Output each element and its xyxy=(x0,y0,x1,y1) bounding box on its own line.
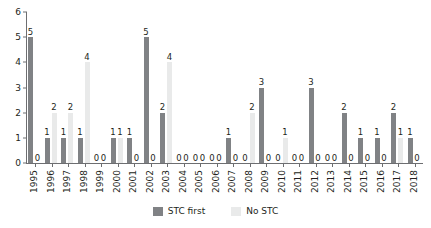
bar-1998-stc-first: 1 xyxy=(78,138,83,163)
x-axis-tick-mark xyxy=(332,164,333,167)
bar-value-label: 2 xyxy=(51,103,56,112)
x-axis-tick-label-2011: 2011 xyxy=(294,170,303,193)
bar-value-label: 0 xyxy=(200,154,205,163)
x-axis-tick-mark xyxy=(52,164,53,167)
x-axis-tick-mark xyxy=(151,164,152,167)
year-group: 12 xyxy=(44,12,61,163)
bar-value-label: 0 xyxy=(134,154,139,163)
x-axis-tick-label-2007: 2007 xyxy=(228,170,237,193)
bar-value-label: 0 xyxy=(299,154,304,163)
x-axis-tick-mark xyxy=(250,164,251,167)
bar-value-label: 0 xyxy=(275,154,280,163)
x-axis-tick-mark xyxy=(349,164,350,167)
x-axis-tick-mark xyxy=(415,164,416,167)
x-axis-tick-mark xyxy=(299,164,300,167)
bar-value-label: 1 xyxy=(398,128,403,137)
bar-1996-stc-first: 1 xyxy=(45,138,50,163)
y-axis: 0123456 xyxy=(0,0,27,170)
x-axis-tick-label-2005: 2005 xyxy=(195,170,204,193)
bar-value-label: 4 xyxy=(84,53,89,62)
bar-value-label: 0 xyxy=(216,154,221,163)
x-axis-tick-mark xyxy=(233,164,234,167)
year-group: 20 xyxy=(341,12,358,163)
x-axis-tick-mark xyxy=(365,164,366,167)
bar-value-label: 0 xyxy=(176,154,181,163)
x-axis-tick-label-2002: 2002 xyxy=(146,170,155,193)
bar-value-label: 0 xyxy=(233,154,238,163)
year-group: 00 xyxy=(291,12,308,163)
bar-value-label: 1 xyxy=(77,128,82,137)
bar-value-label: 1 xyxy=(226,128,231,137)
legend-swatch xyxy=(153,207,163,216)
legend-label: No STC xyxy=(246,207,278,216)
bar-2017-stc-first: 2 xyxy=(391,113,396,163)
bar-2017-no-stc: 1 xyxy=(398,138,403,163)
bar-value-label: 1 xyxy=(282,128,287,137)
x-axis-tick-label-2006: 2006 xyxy=(212,170,221,193)
x-axis-tick-mark xyxy=(35,164,36,167)
x-axis-tick-label-2003: 2003 xyxy=(162,170,171,193)
bar-value-label: 0 xyxy=(209,154,214,163)
bar-2009-stc-first: 3 xyxy=(259,88,264,164)
y-axis-tick-label: 4 xyxy=(15,58,21,67)
x-axis-tick-mark xyxy=(316,164,317,167)
year-group: 30 xyxy=(258,12,275,163)
bar-value-label: 0 xyxy=(381,154,386,163)
bar-value-label: 0 xyxy=(365,154,370,163)
plot-area: 5012121400111050240000001002300100300020… xyxy=(27,12,423,163)
x-axis-tick-label-2008: 2008 xyxy=(245,170,254,193)
bar-value-label: 2 xyxy=(341,103,346,112)
bar-value-label: 0 xyxy=(414,154,419,163)
year-group: 10 xyxy=(374,12,391,163)
bar-value-label: 0 xyxy=(94,154,99,163)
bar-2002-stc-first: 5 xyxy=(144,37,149,163)
x-axis-tick-label-1999: 1999 xyxy=(96,170,105,193)
year-group: 21 xyxy=(390,12,407,163)
bar-value-label: 1 xyxy=(358,128,363,137)
x-axis-tick-label-2017: 2017 xyxy=(393,170,402,193)
bar-value-label: 4 xyxy=(167,53,172,62)
y-axis-tick-label: 6 xyxy=(15,8,21,17)
year-group: 50 xyxy=(27,12,44,163)
y-axis-tick-label: 2 xyxy=(15,108,21,117)
legend-item-no-stc: No STC xyxy=(231,207,278,216)
x-axis-tick-label-2016: 2016 xyxy=(377,170,386,193)
bar-value-label: 0 xyxy=(348,154,353,163)
bar-2000-stc-first: 1 xyxy=(111,138,116,163)
year-group: 14 xyxy=(77,12,94,163)
x-axis-tick-label-2000: 2000 xyxy=(113,170,122,193)
year-group: 30 xyxy=(308,12,325,163)
x-axis-tick-label-1996: 1996 xyxy=(47,170,56,193)
legend-item-stc-first: STC first xyxy=(153,207,205,216)
year-group: 10 xyxy=(225,12,242,163)
bar-value-label: 0 xyxy=(332,154,337,163)
bar-2000-no-stc: 1 xyxy=(118,138,123,163)
year-group: 01 xyxy=(275,12,292,163)
year-group: 00 xyxy=(93,12,110,163)
bar-2012-stc-first: 3 xyxy=(309,88,314,164)
bar-1997-no-stc: 2 xyxy=(68,113,73,163)
bar-2010-no-stc: 1 xyxy=(283,138,288,163)
year-group: 02 xyxy=(242,12,259,163)
bar-value-label: 0 xyxy=(242,154,247,163)
bar-value-label: 2 xyxy=(391,103,396,112)
x-axis-tick-label-2015: 2015 xyxy=(360,170,369,193)
year-group: 10 xyxy=(357,12,374,163)
x-axis-tick-mark xyxy=(184,164,185,167)
bar-value-label: 0 xyxy=(193,154,198,163)
bar-value-label: 2 xyxy=(160,103,165,112)
y-axis-tick-label: 3 xyxy=(15,83,21,92)
bar-value-label: 0 xyxy=(325,154,330,163)
x-axis-tick-label-2014: 2014 xyxy=(344,170,353,193)
bar-value-label: 1 xyxy=(407,128,412,137)
year-group: 10 xyxy=(126,12,143,163)
bar-value-label: 0 xyxy=(35,154,40,163)
x-axis-tick-mark xyxy=(134,164,135,167)
x-axis-tick-label-2013: 2013 xyxy=(327,170,336,193)
year-group: 00 xyxy=(209,12,226,163)
x-axis-tick-label-1997: 1997 xyxy=(63,170,72,193)
x-axis-tick-label-2010: 2010 xyxy=(278,170,287,193)
x-axis-tick-label-2009: 2009 xyxy=(261,170,270,193)
bar-value-label: 2 xyxy=(68,103,73,112)
bar-value-label: 1 xyxy=(44,128,49,137)
